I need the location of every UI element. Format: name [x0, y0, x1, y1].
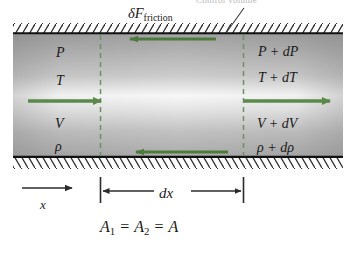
friction-force-subscript: friction [144, 12, 173, 23]
area-equals-2: = [149, 218, 168, 235]
friction-force-label: δFfriction [128, 6, 173, 23]
inlet-temperature-label: T [56, 74, 64, 88]
outlet-density-label: ρ + dρ [257, 141, 294, 155]
outlet-velocity-label: V + dV [257, 117, 297, 131]
area-1-symbol: A [100, 218, 110, 235]
inlet-velocity-label: V [55, 117, 64, 131]
area-symbol: A [169, 218, 179, 235]
outlet-pressure-label: P + dP [258, 45, 298, 59]
inlet-pressure-label: P [56, 46, 65, 60]
lower-wall-hatching [13, 158, 343, 169]
area-relation-label: A1=A2=A [100, 219, 178, 237]
control-volume-caption: Control volume [196, 0, 257, 5]
area-2-symbol: A [134, 218, 144, 235]
inlet-density-label: ρ [55, 140, 62, 154]
duct-flow-diagram: Control volume δFfriction P T V ρ P + dP… [0, 0, 344, 256]
area-equals-1: = [115, 218, 134, 235]
friction-force-symbol: δF [128, 5, 144, 21]
x-axis-label: x [40, 198, 46, 211]
outlet-temperature-label: T + dT [258, 71, 297, 85]
dx-length-label: dx [159, 186, 173, 201]
